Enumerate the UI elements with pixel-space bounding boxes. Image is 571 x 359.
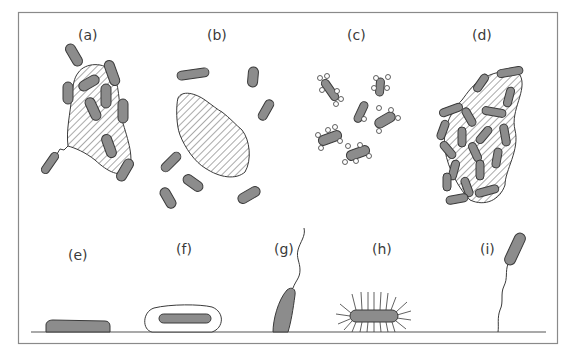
panel-i: [498, 231, 527, 332]
label-e: (e): [68, 247, 88, 263]
panel-e: [46, 320, 110, 332]
panel-a: [40, 42, 135, 183]
label-a: (a): [78, 27, 98, 43]
label-c: (c): [347, 27, 366, 43]
panel-b: [158, 67, 275, 210]
label-i: (i): [480, 241, 495, 257]
panel-d: [436, 66, 524, 205]
label-b: (b): [207, 27, 227, 43]
panel-c: [316, 74, 401, 165]
panel-f: [145, 305, 222, 332]
label-g: (g): [274, 241, 294, 257]
label-d: (d): [472, 27, 492, 43]
label-f: (f): [176, 241, 192, 257]
panel-h: [336, 292, 411, 332]
label-h: (h): [372, 241, 392, 257]
diagram-canvas: (a) (b) (c) (d) (e) (f) (g) (h) (i): [0, 0, 571, 359]
